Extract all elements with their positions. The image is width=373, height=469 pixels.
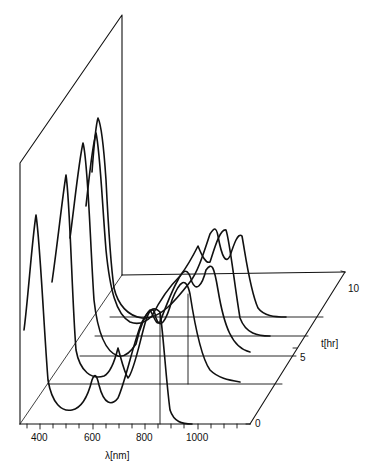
spectrum-t0 [24,215,192,424]
x-tick-400: 400 [31,433,48,443]
x-tick-1000: 1000 [186,433,208,443]
t-tick-5: 5 [300,353,306,363]
spectrum-t6 [86,133,270,336]
x-tick-800: 800 [136,433,153,443]
x-tick-600: 600 [84,433,101,443]
waterfall-chart [0,0,373,469]
spectrum-t2 [52,175,240,382]
x-axis-ticks [27,424,237,429]
t-axis-label: t[hr] [321,339,338,349]
x-axis-label: λ[nm] [105,451,129,461]
t-tick-0: 0 [255,419,261,429]
t-tick-10: 10 [348,284,359,294]
